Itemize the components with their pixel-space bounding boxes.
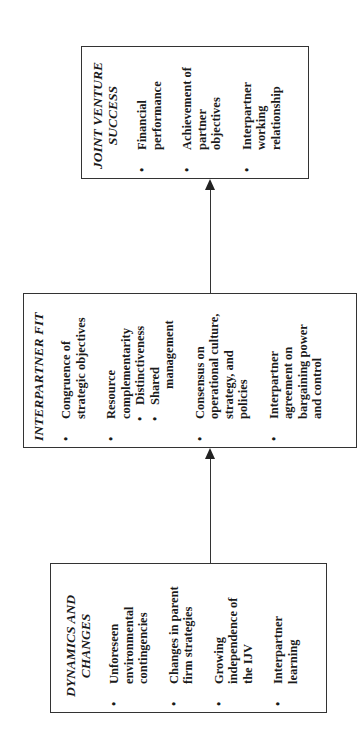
- item-line: firm strategies: [181, 568, 196, 684]
- list-item: • Congruence of strategic objectives: [59, 298, 88, 449]
- item-line: the IJV: [241, 568, 256, 684]
- bullet-list: • Unforeseen environmental contingencies…: [107, 568, 300, 714]
- item-line: policies: [236, 298, 251, 419]
- box-title: JOINT VENTURE SUCCESS: [90, 51, 120, 180]
- item-line: Consensus on: [193, 298, 208, 419]
- bullet-icon: •: [59, 437, 74, 441]
- sub-list-item: • Shared management: [148, 298, 177, 427]
- bullet-list: • Financial performance • Achievement of…: [135, 51, 283, 180]
- item-line: and control: [310, 298, 325, 419]
- item-line: strategy, and: [222, 298, 237, 419]
- bullet-icon: •: [135, 168, 150, 172]
- item-line: partner: [195, 51, 210, 150]
- item-line: learning: [286, 568, 301, 684]
- box-joint-venture-success: JOINT VENTURE SUCCESS • Financial perfor…: [81, 46, 309, 179]
- box-interpartner-fit: INTERPARTNER FIT • Congruence of strateg…: [23, 293, 357, 448]
- item-line: Interpartner: [271, 568, 286, 684]
- box-content-rotated: INTERPARTNER FIT • Congruence of strateg…: [24, 294, 358, 449]
- title-line: CHANGES: [78, 578, 93, 714]
- bullet-icon: •: [133, 417, 148, 421]
- list-item: • Unforeseen environmental contingencies: [107, 568, 151, 714]
- item-line: Resource: [104, 298, 119, 419]
- item-line: working: [254, 51, 269, 150]
- item-line: performance: [150, 51, 165, 150]
- list-item: • Achievement of partner objectives: [180, 51, 224, 180]
- list-item: • Interpartner learning: [271, 568, 300, 714]
- list-item: • Growing independence of the IJV: [212, 568, 256, 714]
- item-line: environmental: [122, 568, 137, 684]
- item-line: objectives: [209, 51, 224, 150]
- box-content-rotated: JOINT VENTURE SUCCESS • Financial perfor…: [82, 47, 310, 180]
- bullet-icon: •: [107, 702, 122, 706]
- list-item: • Resource complementarity • Distinctive…: [104, 298, 177, 449]
- bullet-icon: •: [193, 437, 208, 441]
- list-item: • Interpartner agreement on bargaining p…: [267, 298, 325, 449]
- arrowhead-up-icon: [205, 448, 215, 459]
- title-line: INTERPARTNER FIT: [31, 298, 46, 441]
- item-line: bargaining power: [296, 298, 311, 419]
- box-content-rotated: DYNAMICS AND CHANGES • Unforeseen enviro…: [51, 564, 328, 714]
- item-line: Interpartner: [240, 51, 255, 150]
- sub-list-item: • Distinctiveness: [133, 298, 148, 427]
- bullet-list: • Congruence of strategic objectives • R…: [59, 298, 325, 449]
- item-line: Achievement of: [180, 51, 195, 150]
- item-line: contingencies: [136, 568, 151, 684]
- arrowhead-up-icon: [205, 179, 215, 190]
- item-line: Interpartner: [267, 298, 282, 419]
- connector-line: [210, 186, 211, 293]
- item-line: independence of: [226, 568, 241, 684]
- item-line: agreement on: [281, 298, 296, 419]
- title-line: JOINT VENTURE: [90, 51, 105, 180]
- bullet-icon: •: [148, 417, 163, 421]
- bullet-icon: •: [104, 437, 119, 441]
- box-title: INTERPARTNER FIT: [31, 298, 46, 449]
- list-item: • Changes in parent firm strategies: [167, 568, 196, 714]
- item-line: operational culture,: [207, 298, 222, 419]
- item-line: management: [162, 298, 177, 405]
- item-line: Unforeseen: [107, 568, 122, 684]
- bullet-icon: •: [180, 168, 195, 172]
- bullet-icon: •: [271, 702, 286, 706]
- bullet-icon: •: [240, 168, 255, 172]
- title-line: DYNAMICS AND: [63, 578, 78, 714]
- bullet-icon: •: [267, 437, 282, 441]
- item-line: relationship: [269, 51, 284, 150]
- list-item: • Interpartner working relationship: [240, 51, 284, 180]
- bullet-icon: •: [167, 702, 182, 706]
- list-item: • Financial performance: [135, 51, 164, 180]
- connector-line: [210, 456, 211, 563]
- item-line: Growing: [212, 568, 227, 684]
- item-line: Shared: [148, 298, 163, 405]
- item-line: Financial: [135, 51, 150, 150]
- item-line: strategic objectives: [74, 298, 89, 419]
- item-line: Changes in parent: [167, 568, 182, 684]
- title-line: SUCCESS: [105, 51, 120, 180]
- list-item: • Consensus on operational culture, stra…: [193, 298, 251, 449]
- bullet-icon: •: [212, 702, 227, 706]
- item-line: Distinctiveness: [133, 298, 148, 405]
- sub-bullet-list: • Distinctiveness • Shared management: [133, 298, 177, 427]
- box-dynamics-and-changes: DYNAMICS AND CHANGES • Unforeseen enviro…: [50, 563, 327, 713]
- item-line: complementarity: [119, 298, 134, 419]
- box-title: DYNAMICS AND CHANGES: [63, 568, 93, 714]
- item-line: Congruence of: [59, 298, 74, 419]
